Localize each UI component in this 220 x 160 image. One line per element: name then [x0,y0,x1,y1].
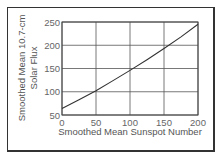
y-tick-label: 150 [44,63,60,74]
y-axis-ticks: 50100150200250 [44,17,60,121]
grid-lines [62,22,198,115]
y-tick-label: 50 [49,110,60,121]
y-tick-label: 250 [44,17,60,28]
y-tick-label: 200 [44,40,60,51]
y-axis-label: Smoothed Mean 10.7-cm Solar Flux [16,15,39,122]
line-chart: 050100150200 50100150200250 Smoothed Mea… [0,0,220,160]
y-axis-label-line-1: Smoothed Mean 10.7-cm [16,15,27,122]
y-tick-label: 100 [44,86,60,97]
y-axis-label-line-2: Solar Flux [28,46,39,89]
x-axis-label: Smoothed Mean Sunspot Number [58,126,202,137]
